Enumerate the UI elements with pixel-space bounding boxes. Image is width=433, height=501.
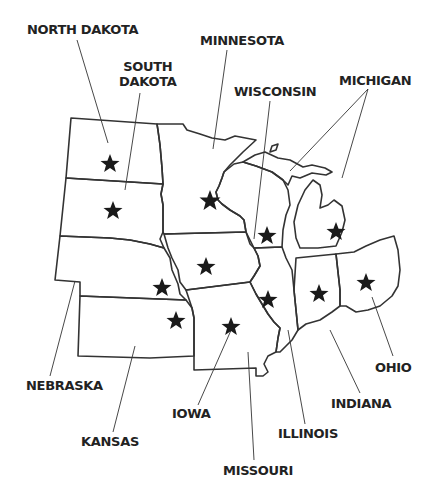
capital-stars	[101, 154, 376, 335]
star-icon	[153, 278, 172, 296]
label-south-dakota-line1: SOUTH	[119, 59, 177, 74]
label-wisconsin: WISCONSIN	[234, 84, 316, 99]
label-indiana: INDIANA	[331, 396, 391, 411]
star-icon	[104, 201, 123, 219]
label-missouri: MISSOURI	[223, 463, 293, 478]
star-icon	[357, 273, 376, 291]
state-kansas	[78, 296, 194, 358]
star-icon	[101, 154, 120, 172]
state-iowa	[164, 232, 260, 290]
star-icon	[200, 190, 221, 210]
state-north-dakota	[66, 118, 163, 184]
star-icon	[197, 257, 216, 275]
star-icon	[327, 222, 346, 240]
label-illinois: ILLINOIS	[278, 426, 338, 441]
label-nebraska: NEBRASKA	[26, 378, 103, 393]
state-michigan-lower	[294, 180, 345, 248]
label-north-dakota: NORTH DAKOTA	[27, 22, 138, 37]
star-icon	[310, 284, 329, 302]
state-wisconsin	[216, 162, 290, 248]
state-michigan-upper	[243, 152, 332, 185]
label-minnesota: MINNESOTA	[200, 33, 284, 48]
state-nebraska	[55, 236, 186, 300]
star-icon	[167, 311, 186, 329]
star-icon	[258, 226, 277, 244]
star-icon	[259, 290, 278, 308]
label-kansas: KANSAS	[81, 434, 139, 449]
star-icon	[222, 317, 241, 335]
label-ohio: OHIO	[375, 360, 412, 375]
label-south-dakota-line2: DAKOTA	[119, 74, 177, 89]
label-michigan: MICHIGAN	[339, 73, 411, 88]
label-south-dakota: SOUTH DAKOTA	[119, 59, 177, 89]
state-ohio	[336, 236, 400, 312]
label-iowa: IOWA	[172, 406, 211, 421]
